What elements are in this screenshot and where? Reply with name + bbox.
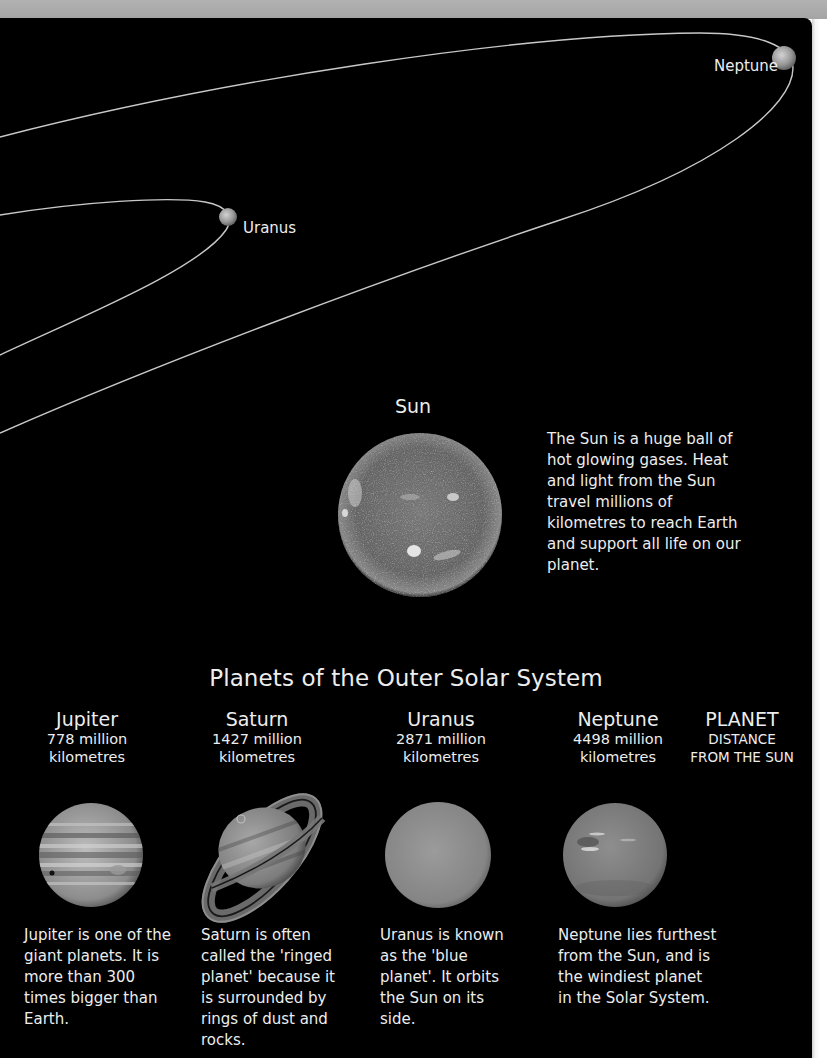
column-legend: PLANET DISTANCE FROM THE SUN xyxy=(672,708,812,766)
saturn-description: Saturn is often called the 'ringed plane… xyxy=(201,925,351,1051)
sun-image xyxy=(338,433,502,597)
planet-distance: 778 million xyxy=(2,730,172,748)
planet-header-saturn: Saturn 1427 million kilometres xyxy=(172,708,342,766)
page-edge-strip xyxy=(812,19,827,1058)
planet-name: Jupiter xyxy=(2,708,172,730)
planet-header-uranus: Uranus 2871 million kilometres xyxy=(356,708,526,766)
uranus-description: Uranus is known as the 'blue planet'. It… xyxy=(380,925,510,1030)
legend-line-2: FROM THE SUN xyxy=(672,748,812,766)
planet-name: Uranus xyxy=(356,708,526,730)
planet-distance-unit: kilometres xyxy=(356,748,526,766)
saturn-image xyxy=(183,776,341,940)
space-panel: Neptune Uranus Sun The Sun is a huge bal… xyxy=(0,18,812,1058)
legend-title: PLANET xyxy=(672,708,812,730)
neptune-orbit-line xyxy=(0,33,793,433)
planet-distance: 1427 million xyxy=(172,730,342,748)
neptune-image xyxy=(563,803,667,907)
sun-label: Sun xyxy=(395,395,431,417)
jupiter-image xyxy=(39,803,143,907)
jupiter-description: Jupiter is one of the giant planets. It … xyxy=(24,925,174,1030)
planet-distance-unit: kilometres xyxy=(2,748,172,766)
planet-distance-unit: kilometres xyxy=(172,748,342,766)
planet-name: Saturn xyxy=(172,708,342,730)
legend-line-1: DISTANCE xyxy=(672,730,812,748)
uranus-orbit-label: Uranus xyxy=(243,219,296,237)
section-title: Planets of the Outer Solar System xyxy=(0,665,812,691)
sun-description: The Sun is a huge ball of hot glowing ga… xyxy=(547,429,747,576)
uranus-orbit-line xyxy=(0,200,229,355)
uranus-image xyxy=(385,802,491,908)
planet-distance: 2871 million xyxy=(356,730,526,748)
uranus-orbit-planet-icon xyxy=(219,208,237,226)
neptune-description: Neptune lies furthest from the Sun, and … xyxy=(558,925,718,1009)
top-page-band xyxy=(0,0,827,19)
planet-header-jupiter: Jupiter 778 million kilometres xyxy=(2,708,172,766)
neptune-orbit-label: Neptune xyxy=(714,57,778,75)
